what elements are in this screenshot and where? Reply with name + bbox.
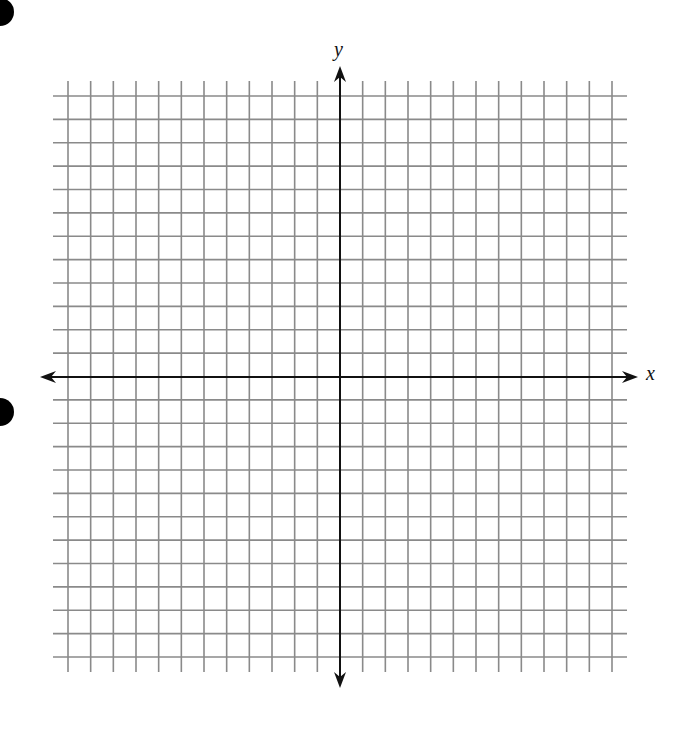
bullet-dot-icon — [0, 0, 14, 26]
y-axis-label: y — [334, 38, 343, 61]
coordinate-grid — [0, 0, 692, 730]
bullet-dot-icon — [0, 398, 14, 426]
bullet-markers — [0, 0, 14, 426]
axes — [40, 66, 638, 688]
x-axis-label: x — [646, 362, 655, 385]
